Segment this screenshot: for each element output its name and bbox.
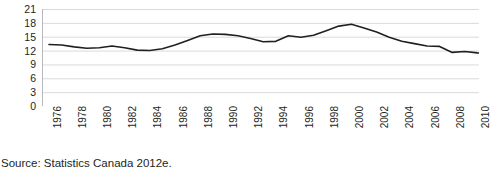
data-line-series-1 [49, 24, 479, 53]
x-axis-tick-label: 1988 [204, 106, 214, 128]
x-axis-tick-label: 1980 [103, 106, 113, 128]
x-axis-tick-label: 1984 [153, 106, 163, 128]
x-axis-labels: 1976197819801982198419861988199019921994… [0, 106, 481, 150]
y-axis-tick-label: 6 [30, 73, 36, 84]
x-axis-tick-label: 2010 [481, 106, 491, 128]
y-axis-tick-label: 12 [24, 45, 36, 56]
plot-area [42, 9, 478, 106]
y-axis-tick-label: 21 [24, 4, 36, 15]
y-axis-tick-label: 15 [24, 31, 36, 42]
x-axis-tick-label: 1978 [78, 106, 88, 128]
x-axis-tick-label: 1994 [279, 106, 289, 128]
line-chart-svg [43, 9, 479, 106]
source-note: Source: Statistics Canada 2012e. [1, 157, 172, 170]
x-axis-tick-label: 2000 [355, 106, 365, 128]
x-axis-tick-label: 1998 [330, 106, 340, 128]
x-axis-tick-label: 2006 [431, 106, 441, 128]
y-axis-tick-label: 3 [30, 87, 36, 98]
chart-title-remnant [0, 0, 481, 5]
gridlines [43, 10, 479, 107]
x-axis-tick-label: 2004 [405, 106, 415, 128]
x-axis-tick-label: 1990 [229, 106, 239, 128]
x-axis-tick-label: 2002 [380, 106, 390, 128]
x-axis-tick-label: 1992 [254, 106, 264, 128]
x-axis-tick-label: 2008 [456, 106, 466, 128]
x-axis-tick-label: 1976 [53, 106, 63, 128]
y-axis-tick-label: 18 [24, 18, 36, 29]
x-axis-tick-label: 1982 [128, 106, 138, 128]
x-axis-tick-label: 1996 [305, 106, 315, 128]
y-axis-labels: 036912151821 [0, 0, 40, 120]
x-axis-tick-label: 1986 [179, 106, 189, 128]
y-axis-tick-label: 9 [30, 59, 36, 70]
